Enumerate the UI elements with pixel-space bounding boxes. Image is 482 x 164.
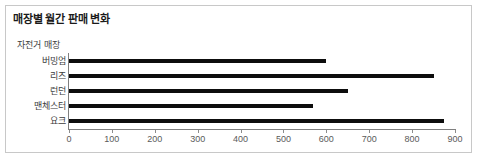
bar-row: 리즈 xyxy=(69,68,455,83)
x-tick-label: 600 xyxy=(319,134,334,144)
x-tick-label: 300 xyxy=(190,134,205,144)
x-tick-mark xyxy=(69,130,70,133)
bar-row: 버밍엄 xyxy=(69,53,455,68)
plot-area: 버밍엄리즈런던맨체스터요크 xyxy=(69,53,455,129)
category-label: 맨체스터 xyxy=(34,102,66,111)
x-tick-label: 0 xyxy=(66,134,71,144)
x-tick-mark xyxy=(241,130,242,133)
bar xyxy=(69,104,313,108)
x-tick-label: 900 xyxy=(447,134,462,144)
x-tick-mark xyxy=(455,130,456,133)
bar-row: 런던 xyxy=(69,83,455,98)
x-tick-label: 500 xyxy=(276,134,291,144)
chart-container: 매장별 월간 판매 변화 자전거 매장 버밍엄리즈런던맨체스터요크 010020… xyxy=(0,0,482,164)
chart-title: 매장별 월간 판매 변화 xyxy=(13,10,110,26)
x-tick-label: 100 xyxy=(104,134,119,144)
x-tick-mark xyxy=(155,130,156,133)
x-tick-mark xyxy=(198,130,199,133)
category-label: 요크 xyxy=(50,117,66,126)
x-tick-label: 800 xyxy=(405,134,420,144)
bar-row: 맨체스터 xyxy=(69,99,455,114)
x-tick-mark xyxy=(369,130,370,133)
bar xyxy=(69,74,434,78)
x-tick-mark xyxy=(412,130,413,133)
x-tick-label: 400 xyxy=(233,134,248,144)
bar xyxy=(69,59,326,63)
category-axis-line xyxy=(68,129,456,130)
x-tick-label: 700 xyxy=(362,134,377,144)
category-label: 리즈 xyxy=(50,71,66,80)
category-label: 런던 xyxy=(50,86,66,95)
x-tick-mark xyxy=(112,130,113,133)
category-axis-title: 자전거 매장 xyxy=(17,38,60,51)
bar xyxy=(69,119,444,123)
x-tick-mark xyxy=(283,130,284,133)
bar-row: 요크 xyxy=(69,114,455,129)
bar xyxy=(69,89,348,93)
x-tick-label: 200 xyxy=(147,134,162,144)
x-tick-mark xyxy=(326,130,327,133)
category-label: 버밍엄 xyxy=(42,56,66,65)
